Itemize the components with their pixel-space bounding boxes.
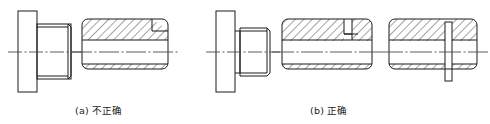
section-hatch-upper	[82, 19, 168, 40]
caption-incorrect: (a) 不正确	[75, 103, 123, 117]
caption-correct: (b) 正确	[310, 103, 348, 117]
engineering-figure: (a) 不正确 (b) 正确	[0, 0, 490, 124]
drawing-canvas	[0, 0, 490, 124]
